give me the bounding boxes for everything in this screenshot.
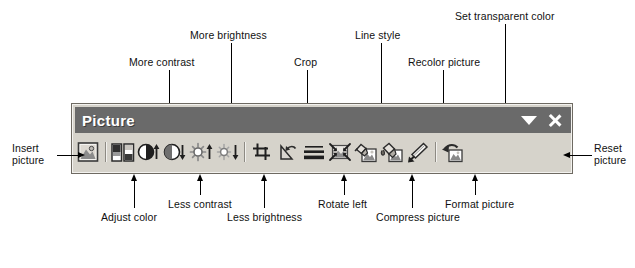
toolbar-button-set-transparent-color[interactable]: [405, 139, 431, 165]
callout-label-crop: Crop: [294, 57, 317, 69]
line-style-icon: [302, 142, 326, 162]
toolbar-button-rotate-left[interactable]: [275, 139, 301, 165]
leader-crop: [307, 70, 308, 103]
callout-label-recolor-picture: Recolor picture: [408, 57, 480, 69]
leader-more-contrast: [169, 70, 170, 103]
compress-picture-icon: [328, 142, 352, 162]
callout-label-insert-picture-line1: Insert: [12, 143, 60, 155]
toolbar-button-more-contrast[interactable]: [136, 139, 162, 165]
leader-rotate-left: [344, 180, 345, 195]
callout-label-rotate-left: Rotate left: [318, 199, 367, 211]
format-picture-icon: [380, 142, 405, 163]
close-icon[interactable]: [547, 113, 562, 128]
rotate-left-icon: [277, 142, 300, 162]
callout-label-format-picture: Format picture: [445, 199, 514, 211]
toolbar-separator: [435, 142, 436, 162]
leader-less-contrast: [200, 180, 201, 195]
leader-less-brightness: [264, 180, 265, 208]
leader-adjust-color: [134, 180, 135, 208]
callout-diagram: More contrast More brightness Crop Line …: [0, 0, 635, 268]
more-brightness-icon: [189, 142, 214, 162]
leader-arrow-insert-picture: [78, 152, 85, 158]
chevron-down-icon[interactable]: [521, 116, 537, 125]
less-brightness-icon: [215, 142, 240, 162]
callout-label-reset-picture: Reset picture: [594, 143, 635, 166]
callout-label-line-style: Line style: [355, 30, 400, 42]
callout-label-reset-picture-line1: Reset: [594, 143, 635, 155]
leader-recolor-picture: [443, 70, 444, 103]
toolbar-separator: [105, 142, 106, 162]
adjust-color-icon: [111, 143, 135, 162]
toolbar-button-recolor-picture[interactable]: [353, 139, 379, 165]
set-transparent-color-icon: [407, 142, 429, 163]
toolbar-title: Picture: [82, 112, 135, 129]
toolbar-button-crop[interactable]: [249, 139, 275, 165]
toolbar-button-more-brightness[interactable]: [188, 139, 214, 165]
leader-reset-picture: [570, 155, 592, 156]
leader-set-transparent-color: [505, 24, 506, 103]
toolbar-button-format-picture[interactable]: [379, 139, 405, 165]
leader-more-brightness: [231, 43, 232, 103]
recolor-picture-icon: [354, 142, 378, 163]
reset-picture-icon: [441, 142, 465, 163]
toolbar-button-row: [75, 135, 571, 169]
callout-label-less-brightness: Less brightness: [227, 212, 302, 224]
leader-compress-picture: [412, 180, 413, 208]
less-contrast-icon: [163, 142, 187, 162]
callout-label-set-transparent-color: Set transparent color: [455, 11, 555, 23]
callout-label-less-contrast: Less contrast: [168, 199, 232, 211]
toolbar-button-compress-picture[interactable]: [327, 139, 353, 165]
callout-label-more-contrast: More contrast: [129, 57, 195, 69]
toolbar-title-bar[interactable]: Picture: [75, 107, 571, 133]
callout-label-insert-picture-line2: picture: [12, 155, 60, 167]
leader-arrow-reset-picture: [563, 152, 570, 158]
callout-label-compress-picture: Compress picture: [376, 212, 460, 224]
toolbar-separator: [244, 142, 245, 162]
leader-format-picture: [475, 180, 476, 195]
leader-line-style: [381, 43, 382, 103]
callout-label-adjust-color: Adjust color: [101, 212, 157, 224]
toolbar-button-color[interactable]: [110, 139, 136, 165]
callout-label-more-brightness: More brightness: [190, 30, 267, 42]
more-contrast-icon: [137, 142, 161, 162]
callout-label-reset-picture-line2: picture: [594, 155, 635, 167]
picture-toolbar[interactable]: Picture: [71, 103, 573, 174]
toolbar-button-reset-picture[interactable]: [440, 139, 466, 165]
crop-icon: [251, 142, 273, 162]
toolbar-button-line-style[interactable]: [301, 139, 327, 165]
toolbar-window-controls: [521, 113, 562, 128]
toolbar-button-less-contrast[interactable]: [162, 139, 188, 165]
callout-label-insert-picture: Insert picture: [12, 143, 60, 166]
leader-insert-picture: [57, 155, 79, 156]
toolbar-button-less-brightness[interactable]: [214, 139, 240, 165]
